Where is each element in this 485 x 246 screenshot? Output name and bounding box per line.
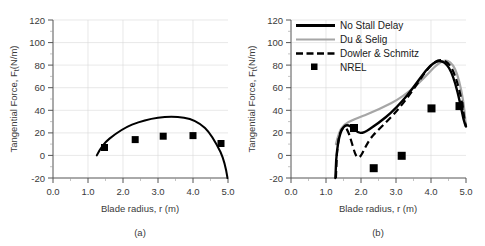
panel-a-x-tick-labels: 0.0 1.0 2.0 3.0 4.0 5.0 — [46, 186, 234, 197]
panel-b-y-tick-labels: 120 100 80 60 40 20 0 -20 — [267, 15, 283, 184]
x-tick-label: 1.0 — [81, 186, 94, 197]
y-tick-label: -20 — [269, 173, 283, 184]
y-tick-label: 40 — [272, 105, 283, 116]
data-point-marker — [398, 152, 406, 160]
y-tick-label: 60 — [34, 82, 45, 93]
panel-a: 120 100 80 60 40 20 0 -20 0.0 1.0 2.0 3.… — [0, 0, 242, 246]
legend-label-dowler-and-schmitz: Dowler & Schmitz — [340, 48, 419, 59]
legend-label-du-and-selig: Du & Selig — [340, 34, 387, 45]
legend-label-no-stall-delay: No Stall Delay — [340, 20, 403, 31]
data-point-marker — [370, 164, 378, 172]
y-tick-label: 100 — [29, 37, 45, 48]
panel-a-caption: (a) — [134, 227, 146, 238]
panel-b-x-axis-title: Blade radius, r (m) — [339, 203, 417, 214]
panel-a-plot: 120 100 80 60 40 20 0 -20 0.0 1.0 2.0 3.… — [0, 0, 242, 246]
panel-b-y-axis-title: Tangential Force, Ft(N/m) — [246, 45, 258, 152]
panel-a-axes — [53, 20, 228, 178]
panel-a-series-nrel — [101, 132, 225, 151]
data-point-marker — [132, 136, 139, 143]
panel-b-series-nrel — [350, 102, 464, 172]
data-point-marker — [218, 140, 225, 147]
y-tick-label: 100 — [267, 37, 283, 48]
data-point-marker — [350, 124, 358, 132]
x-tick-label: 4.0 — [186, 186, 199, 197]
y-tick-label: 80 — [272, 60, 283, 71]
data-point-marker — [190, 132, 197, 139]
x-tick-label: 0.0 — [46, 186, 59, 197]
y-tick-label: 60 — [272, 82, 283, 93]
legend-swatch-nrel — [311, 64, 318, 71]
y-tick-label: -20 — [31, 173, 45, 184]
y-tick-label: 20 — [34, 127, 45, 138]
y-tick-label: 120 — [267, 15, 283, 26]
panel-b-x-tick-labels: 0.0 1.0 2.0 3.0 4.0 5.0 — [284, 186, 472, 197]
panel-b-caption: (b) — [372, 227, 384, 238]
data-point-marker — [456, 102, 464, 110]
y-tick-label: 40 — [34, 105, 45, 116]
x-tick-label: 0.0 — [284, 186, 297, 197]
data-point-marker — [160, 133, 167, 140]
y-tick-label: 80 — [34, 60, 45, 71]
y-tick-label: 120 — [29, 15, 45, 26]
panel-a-y-tick-labels: 120 100 80 60 40 20 0 -20 — [29, 15, 45, 184]
panel-a-series-no-stall-delay — [97, 117, 228, 178]
y-tick-label: 0 — [278, 150, 283, 161]
panel-a-y-axis-title: Tangential Force, Ft(N/m) — [8, 45, 20, 152]
x-tick-label: 5.0 — [459, 186, 472, 197]
panel-a-gridlines — [53, 20, 228, 178]
figure-container: 120 100 80 60 40 20 0 -20 0.0 1.0 2.0 3.… — [0, 0, 485, 246]
data-point-marker — [101, 144, 108, 151]
panel-a-x-axis-title: Blade radius, r (m) — [101, 203, 179, 214]
panel-b-plot: 120 100 80 60 40 20 0 -20 0.0 1.0 2.0 3.… — [243, 0, 485, 246]
x-tick-label: 3.0 — [151, 186, 164, 197]
y-tick-label: 0 — [40, 150, 45, 161]
legend-label-nrel: NREL — [340, 62, 367, 73]
x-tick-label: 2.0 — [116, 186, 129, 197]
x-tick-label: 3.0 — [389, 186, 402, 197]
x-tick-label: 2.0 — [354, 186, 367, 197]
panel-b: 120 100 80 60 40 20 0 -20 0.0 1.0 2.0 3.… — [243, 0, 485, 246]
data-point-marker — [428, 104, 436, 112]
y-tick-label: 20 — [272, 127, 283, 138]
x-tick-label: 5.0 — [221, 186, 234, 197]
x-tick-label: 4.0 — [424, 186, 437, 197]
x-tick-label: 1.0 — [319, 186, 332, 197]
